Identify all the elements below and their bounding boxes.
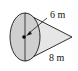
- cone-diagram: [0, 0, 78, 71]
- radius-label: 6 m: [50, 10, 65, 20]
- slant-height-label: 8 m: [49, 53, 64, 63]
- center-point: [22, 35, 26, 39]
